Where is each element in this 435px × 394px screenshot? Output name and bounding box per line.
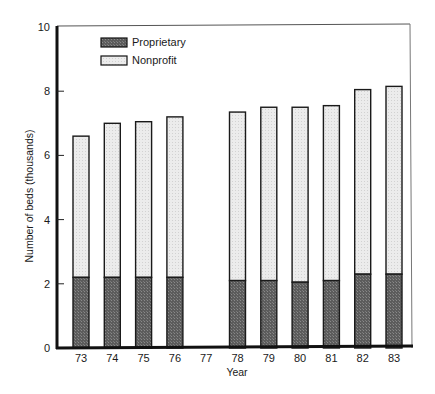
bar-segment-nonprofit bbox=[292, 107, 308, 282]
bar-segment-proprietary bbox=[230, 281, 246, 348]
y-axis-ticks: 0246810 bbox=[38, 21, 64, 354]
bar-segment-nonprofit bbox=[73, 136, 89, 277]
y-tick-label: 6 bbox=[44, 149, 50, 161]
bar-segment-proprietary bbox=[136, 277, 152, 348]
plot-frame-top bbox=[57, 24, 410, 26]
stacked-bar-chart: 0246810 7374757677787980818283 Year Numb… bbox=[0, 0, 435, 394]
bar-segment-proprietary bbox=[292, 282, 308, 348]
bar-segment-nonprofit bbox=[104, 123, 120, 277]
y-tick-label: 4 bbox=[44, 214, 50, 226]
bar-78 bbox=[230, 112, 246, 348]
x-tick-label: 76 bbox=[169, 352, 181, 364]
bar-79 bbox=[261, 107, 277, 348]
x-axis-label: Year bbox=[226, 366, 248, 378]
y-tick-label: 2 bbox=[44, 278, 50, 290]
bar-83 bbox=[386, 86, 402, 348]
bar-segment-proprietary bbox=[261, 281, 277, 348]
bar-segment-nonprofit bbox=[136, 122, 152, 278]
x-tick-label: 80 bbox=[294, 352, 306, 364]
y-tick-label: 0 bbox=[44, 342, 50, 354]
bar-segment-nonprofit bbox=[386, 86, 402, 274]
legend-item-proprietary: Proprietary bbox=[101, 36, 186, 48]
bar-segment-proprietary bbox=[73, 277, 89, 348]
legend-label-nonprofit: Nonprofit bbox=[132, 54, 177, 66]
x-tick-label: 79 bbox=[263, 352, 275, 364]
x-tick-label: 82 bbox=[357, 352, 369, 364]
bar-segment-nonprofit bbox=[230, 112, 246, 281]
bar-segment-proprietary bbox=[386, 274, 402, 348]
x-tick-label: 73 bbox=[75, 352, 87, 364]
y-tick-label: 8 bbox=[44, 85, 50, 97]
bars-group bbox=[73, 86, 402, 348]
bar-segment-nonprofit bbox=[261, 107, 277, 280]
bar-segment-proprietary bbox=[104, 277, 120, 348]
plot-frame-right bbox=[410, 24, 412, 348]
x-tick-label: 81 bbox=[325, 352, 337, 364]
bar-76 bbox=[167, 117, 183, 348]
x-axis bbox=[56, 346, 413, 348]
bar-81 bbox=[323, 106, 339, 348]
bar-segment-proprietary bbox=[167, 277, 183, 348]
bar-73 bbox=[73, 136, 89, 348]
legend: Proprietary Nonprofit bbox=[101, 36, 186, 66]
y-tick-label: 10 bbox=[38, 21, 50, 33]
x-tick-label: 75 bbox=[137, 352, 149, 364]
bar-segment-proprietary bbox=[323, 281, 339, 348]
bar-80 bbox=[292, 107, 308, 348]
legend-label-proprietary: Proprietary bbox=[132, 36, 186, 48]
legend-swatch-proprietary bbox=[101, 38, 127, 47]
bar-74 bbox=[104, 123, 120, 348]
y-axis-label: Number of beds (thousands) bbox=[23, 129, 35, 262]
x-tick-label: 74 bbox=[106, 352, 118, 364]
bar-82 bbox=[355, 90, 371, 348]
bar-segment-nonprofit bbox=[167, 117, 183, 278]
x-tick-label: 78 bbox=[231, 352, 243, 364]
x-tick-label: 83 bbox=[388, 352, 400, 364]
legend-swatch-nonprofit bbox=[101, 56, 127, 65]
x-tick-label: 77 bbox=[200, 352, 212, 364]
bar-75 bbox=[136, 122, 152, 348]
bar-segment-nonprofit bbox=[323, 106, 339, 281]
legend-item-nonprofit: Nonprofit bbox=[101, 54, 177, 66]
x-axis-ticks: 7374757677787980818283 bbox=[75, 352, 400, 364]
bar-segment-nonprofit bbox=[355, 90, 371, 275]
bar-segment-proprietary bbox=[355, 274, 371, 348]
